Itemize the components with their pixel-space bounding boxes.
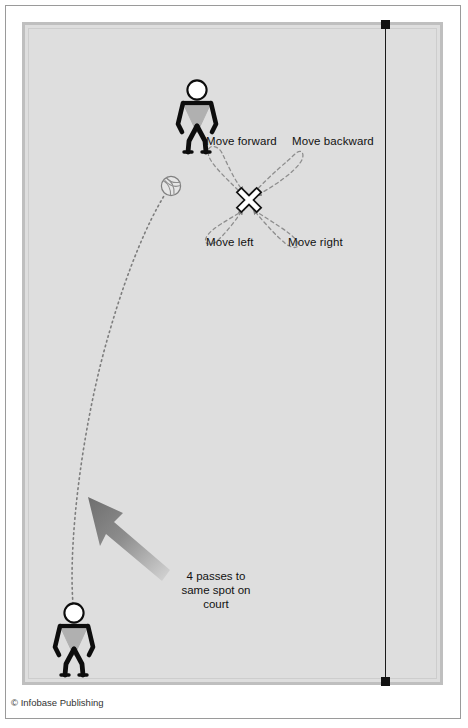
volleyball-drill-figure: Move forward Move backward Move left Mov… [0,0,468,728]
label-move-forward: Move forward [206,135,277,147]
drill-caption: 4 passes to same spot on court [160,569,272,611]
copyright-credit: © Infobase Publishing [11,697,104,708]
label-move-right: Move right [288,236,343,248]
sideline-marker-top [381,20,390,29]
label-move-left: Move left [206,236,254,248]
label-move-backward: Move backward [292,135,374,147]
court-sideline [385,22,386,685]
drill-caption-line-3: court [160,597,272,611]
drill-caption-line-2: same spot on [160,583,272,597]
sideline-marker-bottom [381,677,390,686]
drill-caption-line-1: 4 passes to [160,569,272,583]
